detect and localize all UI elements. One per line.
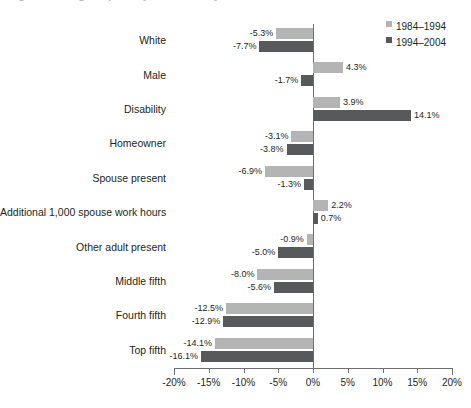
- axis-tick-mark: [417, 368, 418, 373]
- axis-tick-mark: [313, 368, 314, 373]
- bar-series2: [274, 282, 313, 293]
- axis-tick-mark: [209, 368, 210, 373]
- bar-series2: [278, 247, 313, 258]
- axis-tick-label: 20%: [422, 377, 471, 388]
- bar-series2: [259, 41, 313, 52]
- legend-label: 1984–1994: [396, 21, 446, 32]
- legend: 1984–1994 1994–2004: [386, 18, 446, 50]
- legend-item-1984-1994: 1984–1994: [386, 18, 446, 34]
- bar-value-label: -3.1%: [265, 131, 289, 142]
- bar-series2: [304, 179, 313, 190]
- bar-series2: [287, 144, 313, 155]
- bar-series2: [223, 316, 313, 327]
- bar-value-label: -6.9%: [239, 166, 263, 177]
- bar-series1: [215, 338, 313, 349]
- bar-value-label: -14.1%: [183, 338, 212, 349]
- category-label: Additional 1,000 spouse work hours: [0, 206, 166, 218]
- bar-series2: [313, 110, 411, 121]
- category-label: Disability: [0, 103, 166, 115]
- axis-tick-mark: [174, 368, 175, 375]
- chart-row: -6.9%-1.3%: [174, 162, 452, 196]
- plot-area: -5.3%-7.7%4.3%-1.7%3.9%14.1%-3.1%-3.8%-6…: [174, 24, 452, 368]
- chart-row: -3.1%-3.8%: [174, 127, 452, 161]
- bar-value-label: -5.6%: [248, 282, 272, 293]
- legend-label: 1994–2004: [396, 37, 446, 48]
- chart-row: 2.2%0.7%: [174, 196, 452, 230]
- bar-series2: [301, 75, 313, 86]
- chart-row: -0.9%-5.0%: [174, 230, 452, 264]
- category-label: Male: [0, 69, 166, 81]
- bar-value-label: 4.3%: [346, 62, 367, 73]
- bar-value-label: -7.7%: [233, 41, 257, 52]
- bar-value-label: 2.2%: [331, 200, 352, 211]
- bar-series1: [307, 234, 313, 245]
- category-label: Other adult present: [0, 241, 166, 253]
- chart-row: -12.5%-12.9%: [174, 299, 452, 333]
- category-label: Spouse present: [0, 172, 166, 184]
- axis-tick-mark: [278, 368, 279, 373]
- chart-row: -8.0%-5.6%: [174, 265, 452, 299]
- category-label: White: [0, 34, 166, 46]
- chart-container: Figure: Change in poverty-exit rates by …: [0, 0, 471, 408]
- category-label: Fourth fifth: [0, 309, 166, 321]
- legend-swatch-icon: [386, 21, 392, 27]
- axis-tick-mark: [244, 368, 245, 373]
- chart-row: -14.1%-16.1%: [174, 334, 452, 368]
- bar-series1: [313, 62, 343, 73]
- bar-value-label: -0.9%: [280, 234, 304, 245]
- bar-series2: [201, 351, 313, 362]
- legend-item-1994-2004: 1994–2004: [386, 34, 446, 50]
- category-label: Middle fifth: [0, 275, 166, 287]
- bar-value-label: 0.7%: [321, 213, 342, 224]
- bar-series2: [313, 213, 318, 224]
- bar-series1: [291, 131, 313, 142]
- bar-value-label: -5.3%: [250, 28, 274, 39]
- bar-series1: [257, 269, 313, 280]
- bar-value-label: -5.0%: [252, 247, 276, 258]
- bar-series1: [276, 28, 313, 39]
- bar-value-label: -1.3%: [277, 179, 301, 190]
- axis-tick-mark: [383, 368, 384, 373]
- category-label: Homeowner: [0, 137, 166, 149]
- bar-value-label: -12.9%: [192, 316, 221, 327]
- bar-value-label: -3.8%: [260, 144, 284, 155]
- bar-value-label: 14.1%: [414, 110, 440, 121]
- bar-series1: [265, 166, 313, 177]
- bar-series1: [313, 97, 340, 108]
- axis-tick-mark: [348, 368, 349, 373]
- bar-value-label: -16.1%: [170, 351, 199, 362]
- bar-series1: [226, 303, 313, 314]
- bar-value-label: -8.0%: [231, 269, 255, 280]
- cutoff-title-strip: Figure: Change in poverty-exit rates by …: [0, 0, 471, 10]
- chart-row: 4.3%-1.7%: [174, 58, 452, 92]
- chart-row: 3.9%14.1%: [174, 93, 452, 127]
- bar-value-label: -1.7%: [275, 75, 299, 86]
- axis-tick-mark: [452, 368, 453, 375]
- bar-value-label: -12.5%: [195, 303, 224, 314]
- page-title: Figure: Change in poverty-exit rates by …: [8, 0, 298, 1]
- category-label: Top fifth: [0, 344, 166, 356]
- legend-swatch-icon: [386, 37, 392, 43]
- bar-series1: [313, 200, 328, 211]
- bar-value-label: 3.9%: [343, 97, 364, 108]
